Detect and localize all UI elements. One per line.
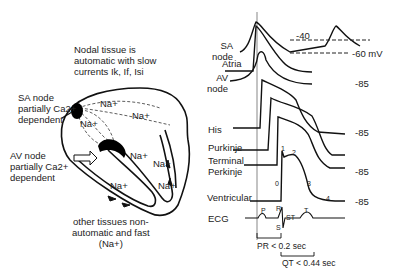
- label-line: node: [207, 83, 228, 94]
- ecg-t-wave-label: T: [304, 205, 308, 216]
- terminal-rest-voltage: -85: [355, 166, 369, 177]
- ecg-r-wave-label: R: [276, 203, 281, 214]
- his-rest-voltage: -85: [355, 127, 369, 138]
- ventricular-trace: [250, 151, 345, 201]
- phase-1-label: 1: [281, 143, 285, 154]
- threshold-voltage: -40: [296, 30, 310, 41]
- phase-3-label: 3: [307, 178, 311, 189]
- purkinje-trace-label: Purkinje: [208, 142, 242, 153]
- terminal-purkinje-trace-label: Terminal Perkinje: [208, 155, 244, 177]
- label-line: Perkinje: [208, 166, 244, 177]
- his-trace-label: His: [208, 124, 222, 135]
- ventricular-rest-voltage: -85: [355, 196, 369, 207]
- phase-4-label: 4: [326, 193, 330, 204]
- pr-interval-label: PR < 0.2 sec: [257, 241, 306, 252]
- label-line: AV: [207, 72, 228, 83]
- av-rest-voltage: -85: [355, 78, 369, 89]
- phase-2-label: 2: [292, 147, 296, 158]
- ecg-st-segment-label: ST: [286, 212, 295, 223]
- action-potential-traces: [0, 0, 393, 277]
- qt-interval-bracket: [281, 252, 314, 256]
- his-trace: [233, 80, 345, 134]
- phase-0-label: 0: [275, 178, 279, 189]
- pr-interval-bracket: [257, 233, 281, 238]
- ventricular-trace-label: Ventricular: [207, 192, 252, 203]
- qt-interval-label: QT < 0.44 sec: [282, 258, 335, 269]
- ecg-trace: [245, 207, 345, 228]
- av-node-trace-label: AV node: [207, 72, 228, 94]
- label-line: SA: [212, 40, 233, 51]
- ecg-s-wave-label: S: [276, 222, 281, 233]
- ecg-trace-label: ECG: [208, 213, 229, 224]
- label-line: Terminal: [208, 155, 244, 166]
- av-node-trace: [230, 52, 312, 84]
- terminal-purkinje-trace: [244, 117, 345, 168]
- sa-rest-voltage: -60 mV: [352, 48, 383, 59]
- atria-trace-label: Atria: [222, 58, 242, 69]
- purkinje-trace: [233, 98, 345, 155]
- ecg-p-wave-label: P: [261, 205, 266, 216]
